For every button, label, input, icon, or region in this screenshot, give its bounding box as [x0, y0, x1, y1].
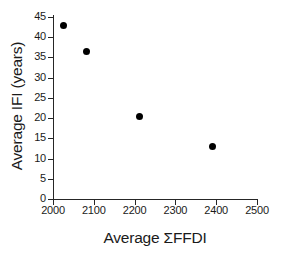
x-axis-line — [53, 199, 258, 200]
data-point — [209, 143, 216, 150]
y-axis-tick — [48, 118, 53, 119]
y-axis-tick — [48, 159, 53, 160]
y-axis-tick — [48, 179, 53, 180]
y-axis-tick — [48, 138, 53, 139]
data-point — [83, 48, 90, 55]
y-axis-tick — [48, 78, 53, 79]
y-axis-line — [53, 15, 54, 200]
x-axis-tick-label: 2400 — [193, 205, 239, 216]
y-axis-tick — [48, 98, 53, 99]
y-axis-title: Average IFI (years) — [9, 11, 25, 201]
data-point — [136, 113, 143, 120]
y-axis-tick — [48, 57, 53, 58]
data-point — [60, 22, 67, 29]
x-axis-tick-label: 2500 — [234, 205, 280, 216]
scatter-chart-figure: 051015202530354045 200021002200230024002… — [0, 0, 287, 256]
x-axis-tick-label: 2100 — [71, 205, 117, 216]
x-axis-tick-label: 2000 — [30, 205, 76, 216]
y-axis-tick — [48, 37, 53, 38]
x-axis-tick-label: 2300 — [152, 205, 198, 216]
x-axis-title: Average ΣFFDI — [40, 229, 270, 246]
y-axis-tick — [48, 17, 53, 18]
x-axis-tick-label: 2200 — [112, 205, 158, 216]
